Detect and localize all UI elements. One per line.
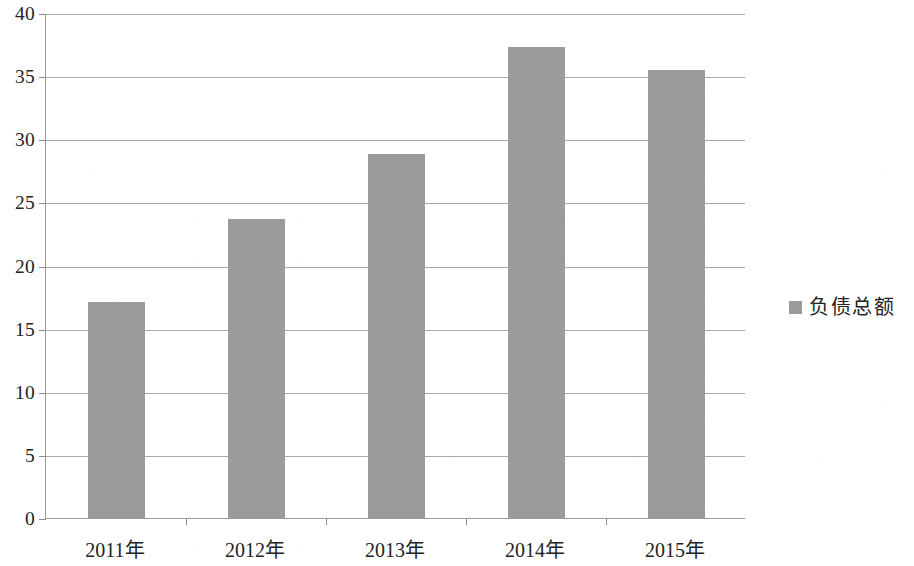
y-axis-tick-label: 25 bbox=[0, 193, 35, 213]
y-axis-tick bbox=[39, 140, 46, 141]
bar-2014年 bbox=[508, 47, 565, 518]
legend-label-total-liabilities: 负债总额 bbox=[809, 297, 895, 317]
y-axis-tick-label: 35 bbox=[0, 67, 35, 87]
y-axis-tick bbox=[39, 267, 46, 268]
y-axis-tick bbox=[39, 14, 46, 15]
x-axis-label-2012年: 2012年 bbox=[185, 540, 325, 560]
y-axis-tick bbox=[39, 393, 46, 394]
bar-2015年 bbox=[648, 70, 705, 518]
bar-2012年 bbox=[228, 219, 285, 518]
x-axis-label-2013年: 2013年 bbox=[325, 540, 465, 560]
y-axis-tick bbox=[39, 456, 46, 457]
y-axis-tick-label: 10 bbox=[0, 383, 35, 403]
y-axis-tick-label: 20 bbox=[0, 257, 35, 277]
y-axis-tick bbox=[39, 330, 46, 331]
y-axis-tick-label: 30 bbox=[0, 130, 35, 150]
y-axis-tick bbox=[39, 519, 46, 520]
x-axis-tick bbox=[186, 518, 187, 525]
y-axis-tick bbox=[39, 203, 46, 204]
chart-legend: 负债总额 bbox=[789, 297, 895, 317]
bars-layer bbox=[46, 14, 745, 518]
y-axis-tick-label: 5 bbox=[0, 446, 35, 466]
x-axis-tick bbox=[326, 518, 327, 525]
y-axis-tick-label: 0 bbox=[0, 509, 35, 529]
bar-2013年 bbox=[368, 154, 425, 518]
legend-swatch-icon bbox=[789, 301, 802, 314]
y-axis-tick-label: 15 bbox=[0, 320, 35, 340]
x-axis-label-2011年: 2011年 bbox=[45, 540, 185, 560]
y-axis-tick bbox=[39, 77, 46, 78]
x-axis-tick bbox=[466, 518, 467, 525]
plot-area bbox=[45, 14, 745, 519]
x-axis-label-2015年: 2015年 bbox=[605, 540, 745, 560]
x-axis-tick bbox=[606, 518, 607, 525]
bar-chart: 0510152025303540 2011年2012年2013年2014年201… bbox=[0, 0, 914, 566]
bar-2011年 bbox=[88, 302, 145, 518]
x-axis-label-2014年: 2014年 bbox=[465, 540, 605, 560]
y-axis-tick-label: 40 bbox=[0, 4, 35, 24]
